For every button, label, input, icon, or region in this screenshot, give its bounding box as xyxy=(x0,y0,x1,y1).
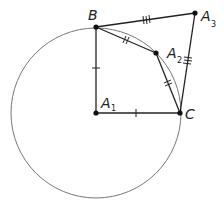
geometry-diagram: B A 1 C A 2 A 3 xyxy=(0,0,224,208)
segment-b-a2 xyxy=(96,27,156,53)
label-a3-sub: 3 xyxy=(211,20,216,29)
label-b: B xyxy=(88,7,98,23)
label-a3: A xyxy=(200,8,211,24)
label-a1-sub: 1 xyxy=(111,104,116,113)
point-c xyxy=(177,110,182,115)
point-b xyxy=(93,24,98,29)
point-a2 xyxy=(153,50,158,55)
label-a1: A xyxy=(100,95,111,111)
label-c: C xyxy=(185,106,195,122)
point-a1 xyxy=(93,110,98,115)
segment-a3-c xyxy=(180,13,195,113)
label-a2: A xyxy=(166,45,177,61)
segment-b-a3 xyxy=(96,13,195,27)
point-a3 xyxy=(192,10,197,15)
label-a2-sub: 2 xyxy=(177,56,182,65)
